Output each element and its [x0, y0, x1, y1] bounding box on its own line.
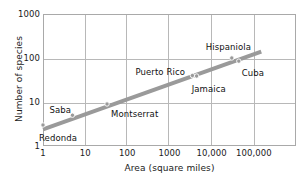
x-tick-label: 1000: [158, 148, 180, 158]
gridline-horizontal: [44, 103, 295, 104]
x-axis-title: Area (square miles): [43, 163, 296, 173]
gridline-vertical: [126, 15, 127, 145]
gridline-vertical: [168, 15, 169, 145]
y-tick-label: 1000: [18, 9, 40, 19]
x-tick-label: 100: [119, 148, 136, 158]
x-tick-label: 1: [40, 148, 46, 158]
y-tick-label: 10: [29, 97, 40, 107]
data-point-label: Cuba: [242, 68, 264, 78]
data-point-label: Puerto Rico: [135, 67, 185, 77]
data-point-label: Hispaniola: [206, 42, 251, 52]
x-tick-label: 100,000: [236, 148, 272, 158]
data-point-label: Saba: [49, 105, 71, 115]
data-point-label: Montserrat: [111, 109, 158, 119]
y-axis-title: Number of species: [14, 19, 24, 139]
data-point-label: Jamaica: [192, 84, 226, 94]
x-tick-label: 10,000: [196, 148, 226, 158]
plot-area: [43, 14, 296, 146]
gridline-vertical: [254, 15, 255, 145]
gridline-vertical: [211, 15, 212, 145]
gridline-vertical: [85, 15, 86, 145]
y-tick-label: 100: [23, 53, 40, 63]
species-area-chart: 110100100010,000100,000 1101001000 Redon…: [0, 0, 305, 178]
gridline-horizontal: [44, 59, 295, 60]
data-point-label: Redonda: [39, 133, 77, 143]
x-tick-label: 10: [80, 148, 91, 158]
